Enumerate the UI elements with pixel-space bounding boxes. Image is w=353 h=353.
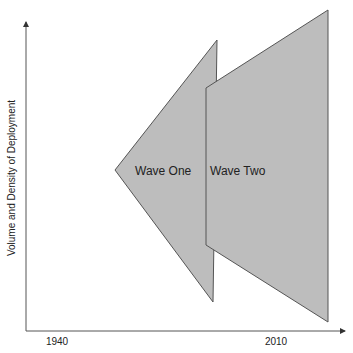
wave-one-label: Wave One [135, 164, 192, 178]
y-axis-label: Volume and Density of Deployment [6, 100, 17, 256]
wave-diagram: Wave One Wave Two Volume and Density of … [0, 0, 353, 353]
x-tick-2010: 2010 [265, 336, 288, 347]
x-tick-1940: 1940 [46, 336, 69, 347]
wave-two-label: Wave Two [210, 164, 266, 178]
